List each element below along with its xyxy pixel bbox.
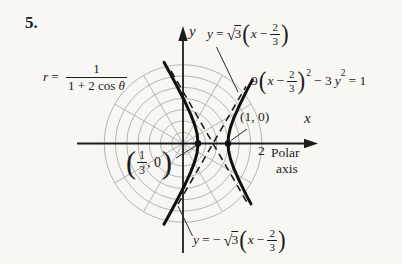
leader-point-one-third — [176, 146, 197, 159]
radicand-3: 3 — [234, 27, 241, 42]
x-variable: x — [248, 233, 254, 248]
open-paren: ( — [126, 149, 136, 177]
theta-symbol: θ — [119, 78, 125, 93]
two-thirds-fraction: 2 3 — [270, 21, 280, 48]
equation-asymptote-negative: y = − √ 3 ( x − 2 3 ) — [193, 227, 287, 254]
x-axis-tick-2: 2 — [258, 144, 265, 159]
equation-asymptote-positive: y = √ 3 ( x − 2 3 ) — [207, 21, 290, 48]
x-axis-arrowhead — [304, 139, 318, 148]
frac-denominator: 3 — [287, 81, 297, 95]
figure-canvas: 5. r = 1 1 + 2 cos θ y = √ 3 ( x − 2 3 )… — [0, 0, 402, 264]
minus-sign: − — [260, 27, 268, 42]
polar-lhs: r — [43, 70, 48, 85]
hyperbola-right-branch — [228, 80, 252, 204]
asym-bottom-lhs: y — [193, 233, 199, 248]
polar-numerator: 1 — [91, 61, 102, 77]
leader-top-equation — [217, 47, 239, 92]
open-paren: ( — [239, 229, 247, 252]
close-paren: ) — [278, 229, 286, 252]
coefficient-9: 9 — [251, 74, 258, 89]
polar-denominator: 1 + 2 cos θ — [66, 77, 127, 94]
frac-numerator: 2 — [267, 227, 277, 240]
asym-bottom-equals-minus: = − — [202, 233, 221, 248]
x-axis-label: x — [304, 110, 311, 127]
x-variable: x — [267, 74, 273, 89]
x-variable: x — [251, 27, 257, 42]
y-axis-arrowhead — [178, 26, 187, 41]
exponent-2: 2 — [341, 68, 346, 78]
frac-numerator: 1 — [137, 148, 147, 162]
frac-denominator: 3 — [137, 162, 147, 177]
frac-numerator: 2 — [287, 68, 297, 81]
asym-top-equals: = — [216, 27, 224, 42]
radicand-3: 3 — [231, 233, 238, 248]
polar-axis-label-line2: axis — [276, 162, 298, 177]
asym-top-lhs: y — [207, 27, 213, 42]
asymptote-positive-slope — [178, 86, 246, 204]
point-label-1-0: (1, 0) — [240, 110, 269, 125]
minus-sign: − — [276, 74, 284, 89]
equation-polar-conic: r = 1 1 + 2 cos θ — [43, 61, 127, 93]
open-paren: ( — [259, 70, 267, 93]
polar-denominator-text: 1 + 2 cos — [68, 78, 119, 93]
frac-numerator: 2 — [270, 21, 280, 34]
polar-fraction: 1 1 + 2 cos θ — [66, 61, 127, 93]
minus-3-term: − 3 — [314, 74, 332, 89]
frac-denominator: 3 — [270, 34, 280, 48]
equals-1: = 1 — [348, 74, 366, 89]
vertex-dot-right — [225, 140, 231, 146]
exponent-2: 2 — [306, 68, 311, 78]
plot-svg — [0, 0, 402, 264]
point-label-one-third-0: ( 1 3 , 0 ) — [125, 148, 173, 178]
y-axis-label: y — [189, 23, 196, 40]
two-thirds-fraction: 2 3 — [287, 68, 297, 95]
one-third-fraction: 1 3 — [137, 148, 147, 178]
minus-sign: − — [257, 233, 265, 248]
frac-denominator: 3 — [267, 240, 277, 254]
polar-equals: = — [51, 70, 59, 85]
close-paren: ) — [298, 70, 306, 93]
two-thirds-fraction: 2 3 — [267, 227, 277, 254]
polar-axis-label-line1: Polar — [271, 146, 300, 161]
open-paren: ( — [242, 23, 250, 46]
equation-hyperbola-cartesian: 9 ( x − 2 3 ) 2 − 3 y 2 = 1 — [251, 68, 369, 95]
comma-zero: , 0 — [147, 155, 161, 170]
problem-number: 5. — [25, 14, 38, 33]
close-paren: ) — [162, 149, 172, 177]
close-paren: ) — [281, 23, 289, 46]
